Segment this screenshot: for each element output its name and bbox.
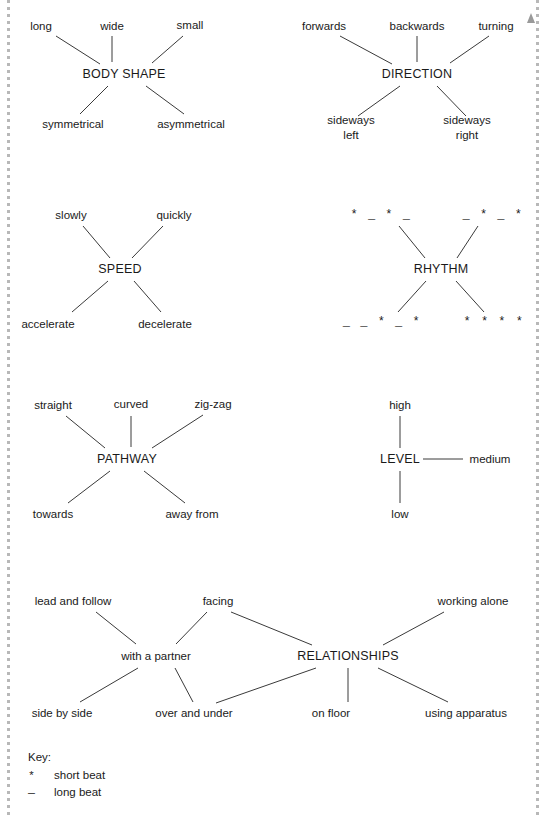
- connector-line: [152, 415, 203, 448]
- right-dotted-rail: [536, 0, 539, 819]
- connector-line: [457, 226, 478, 258]
- connector-line: [383, 612, 444, 645]
- connector-line: [231, 612, 312, 645]
- leaf-node-level-2: low: [391, 507, 408, 521]
- leaf-node-pathway-1: curved: [114, 397, 149, 411]
- leaf-node-speed-1: quickly: [156, 208, 191, 222]
- leaf-node-relationships-0: with a partner: [121, 649, 191, 663]
- leaf-node-relationships-2: facing: [203, 594, 234, 608]
- leaf-node-rhythm-0: * _ * _: [351, 208, 412, 222]
- node-label-line: sideways: [443, 113, 490, 128]
- leaf-node-pathway-4: away from: [165, 507, 218, 521]
- connector-line: [340, 36, 392, 64]
- leaf-node-relationships-5: over and under: [155, 706, 232, 720]
- connector-line: [450, 36, 489, 63]
- leaf-node-rhythm-3: * * * *: [464, 315, 525, 329]
- hub-node-pathway: PATHWAY: [97, 452, 157, 466]
- short-beat-symbol-icon: *: [28, 767, 54, 784]
- movement-vocabulary-diagram: BODY SHAPElongwidesmallsymmetricalasymme…: [0, 0, 546, 819]
- key-legend: Key: * short beat — long beat: [28, 749, 105, 801]
- connector-line: [72, 281, 108, 312]
- leaf-node-direction-2: turning: [478, 19, 513, 33]
- connector-line: [152, 36, 183, 63]
- leaf-node-rhythm-2: _ _ * _ *: [343, 315, 421, 329]
- key-item-long-beat: — long beat: [28, 784, 105, 801]
- connector-line: [68, 471, 110, 503]
- connector-line: [399, 226, 425, 258]
- key-item-short-beat: * short beat: [28, 767, 105, 784]
- leaf-node-pathway-3: towards: [33, 507, 73, 521]
- leaf-node-direction-1: backwards: [390, 19, 445, 33]
- long-beat-symbol-icon: —: [28, 784, 54, 801]
- short-beat-label: short beat: [54, 767, 105, 784]
- connector-line: [358, 86, 400, 116]
- hub-node-speed: SPEED: [98, 262, 141, 276]
- connector-line: [378, 668, 448, 702]
- leaf-node-body-shape-0: long: [30, 19, 52, 33]
- hub-node-direction: DIRECTION: [382, 67, 453, 81]
- scroll-up-arrow-icon: [527, 13, 535, 23]
- connector-line: [398, 281, 426, 312]
- leaf-node-speed-2: accelerate: [21, 317, 74, 331]
- connector-line: [66, 416, 105, 448]
- leaf-node-relationships-1: lead and follow: [35, 594, 112, 608]
- connector-line: [175, 668, 193, 702]
- node-label-line: left: [327, 128, 374, 143]
- hub-node-rhythm: RHYTHM: [414, 262, 469, 276]
- key-title: Key:: [28, 749, 105, 766]
- leaf-node-rhythm-1: _ * _ *: [463, 208, 524, 222]
- leaf-node-speed-3: decelerate: [138, 317, 192, 331]
- leaf-node-pathway-0: straight: [34, 398, 72, 412]
- connector-line: [80, 668, 138, 702]
- leaf-node-relationships-6: on floor: [312, 706, 350, 720]
- leaf-node-body-shape-2: small: [177, 18, 204, 32]
- leaf-node-direction-0: forwards: [302, 19, 346, 33]
- leaf-node-pathway-2: zig-zag: [194, 397, 231, 411]
- leaf-node-level-1: medium: [470, 452, 511, 466]
- connector-line: [83, 226, 110, 258]
- leaf-node-body-shape-1: wide: [100, 19, 124, 33]
- connector-line: [96, 612, 136, 644]
- hub-node-relationships: RELATIONSHIPS: [297, 649, 399, 663]
- connector-line: [56, 36, 100, 64]
- connector-line: [216, 668, 316, 703]
- leaf-node-body-shape-3: symmetrical: [42, 117, 103, 131]
- leaf-node-speed-0: slowly: [55, 208, 86, 222]
- leaf-node-body-shape-4: asymmetrical: [157, 117, 225, 131]
- connector-line: [176, 612, 207, 644]
- connector-line: [132, 226, 163, 258]
- left-dotted-rail: [7, 0, 10, 819]
- leaf-node-relationships-3: working alone: [438, 594, 509, 608]
- leaf-node-direction-3: sidewaysleft: [327, 113, 374, 143]
- long-beat-label: long beat: [54, 784, 101, 801]
- connector-line: [80, 86, 108, 114]
- connector-line: [456, 281, 484, 312]
- connector-line: [134, 281, 161, 312]
- leaf-node-level-0: high: [389, 398, 411, 412]
- connector-line: [144, 471, 185, 503]
- node-label-line: sideways: [327, 113, 374, 128]
- hub-node-body-shape: BODY SHAPE: [82, 67, 165, 81]
- connector-line: [146, 86, 184, 114]
- node-label-line: right: [443, 128, 490, 143]
- leaf-node-relationships-4: side by side: [32, 706, 93, 720]
- connector-line: [437, 86, 466, 116]
- hub-node-level: LEVEL: [380, 452, 420, 466]
- leaf-node-relationships-7: using apparatus: [425, 706, 507, 720]
- leaf-node-direction-4: sidewaysright: [443, 113, 490, 143]
